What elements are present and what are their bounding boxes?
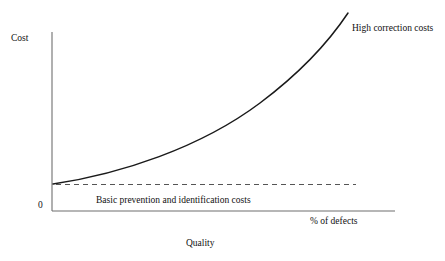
cost-curve xyxy=(53,13,348,184)
x-axis-right-label: % of defects xyxy=(310,216,357,227)
annotation-high-correction-costs: High correction costs xyxy=(352,23,440,34)
x-axis-label: Quality xyxy=(186,238,215,249)
origin-label: 0 xyxy=(38,200,43,211)
y-axis-label: Cost xyxy=(11,33,28,44)
annotation-basic-prevention-costs: Basic prevention and identification cost… xyxy=(96,195,251,206)
cost-quality-chart: Cost 0 % of defects Quality High correct… xyxy=(0,0,445,261)
chart-canvas xyxy=(0,0,445,261)
